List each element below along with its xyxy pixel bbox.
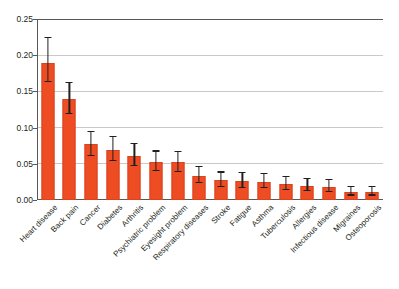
error-bar-cap-lower <box>282 189 289 190</box>
error-bar-cap-lower <box>109 160 116 161</box>
error-bar-cap-upper <box>44 37 51 38</box>
error-bar-cap-upper <box>261 173 268 174</box>
bar-group[interactable] <box>340 19 362 200</box>
error-bar-cap-lower <box>347 194 354 195</box>
error-bar-cap-lower <box>44 81 51 82</box>
y-axis: 0.250.200.150.100.050.00 <box>0 19 33 200</box>
bar-group[interactable] <box>37 19 59 200</box>
bar-group[interactable] <box>297 19 319 200</box>
error-bar-cap-upper <box>369 186 376 187</box>
bars-layer <box>37 19 383 200</box>
bar-group[interactable] <box>59 19 81 200</box>
error-bar-line <box>47 38 48 82</box>
error-bar-line <box>155 152 156 172</box>
y-axis-tick-label: 0.25 <box>16 15 33 23</box>
bar-group[interactable] <box>318 19 340 200</box>
x-axis-labels: Heart diseaseBack painCancerDiabetesArth… <box>37 203 383 289</box>
x-axis-tick-label: Fatigue <box>229 203 254 228</box>
bar-group[interactable] <box>210 19 232 200</box>
error-bar-cap-upper <box>109 136 116 137</box>
error-bar-cap-lower <box>217 186 224 187</box>
bar[interactable] <box>41 63 54 200</box>
error-bar-cap-lower <box>152 170 159 171</box>
y-axis-tick-label: 0.00 <box>16 196 33 204</box>
error-bar-cap-upper <box>239 172 246 173</box>
bar-group[interactable] <box>361 19 383 200</box>
bar-group[interactable] <box>232 19 254 200</box>
error-bar-cap-upper <box>152 150 159 151</box>
error-bar-cap-lower <box>304 190 311 191</box>
error-bar-cap-upper <box>217 171 224 172</box>
error-bar-line <box>90 132 91 156</box>
x-axis-tick-label-text: Fatigue <box>229 203 254 228</box>
error-bar-cap-lower <box>261 187 268 188</box>
y-axis-tick-label: 0.05 <box>16 160 33 168</box>
error-bar-cap-upper <box>174 151 181 152</box>
y-axis-tick-mark <box>33 200 37 201</box>
error-bar-line <box>69 83 70 113</box>
error-bar-cap-lower <box>369 194 376 195</box>
error-bar-line <box>177 152 178 172</box>
error-bar-cap-lower <box>131 165 138 166</box>
bar-group[interactable] <box>145 19 167 200</box>
error-bar-line <box>134 144 135 166</box>
error-bar-cap-lower <box>196 182 203 183</box>
error-bar-cap-upper <box>282 176 289 177</box>
y-axis-tick-label: 0.15 <box>16 87 33 95</box>
error-bar-cap-upper <box>304 178 311 179</box>
error-bar-cap-upper <box>66 82 73 83</box>
bar-group[interactable] <box>167 19 189 200</box>
error-bar-cap-lower <box>239 187 246 188</box>
bar-group[interactable] <box>253 19 275 200</box>
error-bar-cap-upper <box>325 179 332 180</box>
error-bar-cap-lower <box>325 191 332 192</box>
error-bar-cap-lower <box>66 113 73 114</box>
error-bar-cap-upper <box>347 186 354 187</box>
bar-group[interactable] <box>275 19 297 200</box>
error-bar-line <box>112 137 113 161</box>
error-bar-cap-lower <box>174 171 181 172</box>
error-bar-cap-upper <box>196 166 203 167</box>
error-bar-cap-upper <box>131 143 138 144</box>
error-bar-line <box>199 167 200 183</box>
y-axis-tick-label: 0.20 <box>16 51 33 59</box>
bar-group[interactable] <box>80 19 102 200</box>
error-bar-cap-lower <box>88 155 95 156</box>
bar-chart: 0.250.200.150.100.050.00 Heart diseaseBa… <box>0 0 399 289</box>
y-axis-tick-label: 0.10 <box>16 124 33 132</box>
bar-group[interactable] <box>124 19 146 200</box>
error-bar-cap-upper <box>88 131 95 132</box>
bar-group[interactable] <box>102 19 124 200</box>
bar-group[interactable] <box>188 19 210 200</box>
